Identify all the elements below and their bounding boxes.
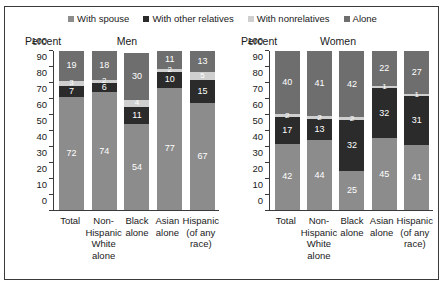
x-label-women-1: Non-HispanicWhitealone <box>301 215 337 261</box>
bar-segment: 40 <box>275 51 300 114</box>
bar-value-label: 67 <box>198 152 208 161</box>
y-tick <box>49 146 53 147</box>
x-label-women-2: Blackalone <box>337 215 367 261</box>
bar-value-label: 5 <box>200 72 204 80</box>
bar-segment: 44 <box>307 140 332 210</box>
bar-value-label: 41 <box>412 173 422 182</box>
bar-value-label: 18 <box>99 61 109 70</box>
bar-segment: 32 <box>372 88 397 139</box>
x-label-line: Asian <box>367 215 397 227</box>
bar-value-label: 1 <box>382 83 386 91</box>
legend-item-alone: Alone <box>344 13 377 24</box>
y-tick-label: 100 <box>23 35 47 46</box>
x-label-line: Hispanic <box>397 215 433 227</box>
bar-segment: 13 <box>307 119 332 140</box>
bar-segment: 22 <box>372 51 397 86</box>
x-label-line: (of any <box>183 227 219 239</box>
legend-swatch-icon <box>68 16 74 22</box>
x-label-men-3: Asianalone <box>152 215 182 261</box>
plot-area-women: 0102030405060708090100 40217424121344422… <box>269 51 433 211</box>
y-tick <box>49 114 53 115</box>
bar-group-women: 40217424121344422322522132452713141 <box>271 51 433 210</box>
y-tick <box>49 194 53 195</box>
legend-item-with_nonrelatives: With nonrelatives <box>248 13 330 24</box>
bar-value-label: 77 <box>165 144 175 153</box>
y-tick-label: 50 <box>23 115 47 126</box>
bar-value-label: 27 <box>412 68 422 77</box>
bar-value-label: 19 <box>66 61 76 70</box>
bar-segment: 10 <box>157 72 182 88</box>
bar-segment: 15 <box>190 80 215 104</box>
x-label-line: Non- <box>301 215 337 227</box>
y-tick <box>49 82 53 83</box>
bar-segment: 77 <box>157 88 182 210</box>
bar-segment: 11 <box>124 107 149 124</box>
bar-value-label: 15 <box>198 87 208 96</box>
bar-segment: 25 <box>339 171 364 210</box>
bar-men-4[interactable]: 1351567 <box>190 51 215 210</box>
bar-value-label: 2 <box>168 66 172 74</box>
y-tick <box>265 146 269 147</box>
y-tick-label: 40 <box>239 131 263 142</box>
bar-value-label: 2 <box>350 115 354 123</box>
bar-value-label: 7 <box>69 87 74 96</box>
bar-value-label: 42 <box>347 80 357 89</box>
x-label-line: alone <box>301 250 337 262</box>
y-tick <box>265 162 269 163</box>
x-label-line: Asian <box>152 215 182 227</box>
bar-segment: 74 <box>92 92 117 210</box>
x-label-line: Non- <box>85 215 121 227</box>
bar-value-label: 54 <box>132 163 142 172</box>
bar-value-label: 2 <box>317 114 321 122</box>
bar-women-2[interactable]: 4223225 <box>339 51 364 210</box>
y-tick <box>265 66 269 67</box>
legend-label: With nonrelatives <box>257 13 330 24</box>
bar-men-3[interactable]: 1121077 <box>157 51 182 210</box>
y-tick <box>265 178 269 179</box>
bar-women-4[interactable]: 2713141 <box>404 51 429 210</box>
x-label-line: (of any <box>397 227 433 239</box>
panel-men: Percent Men 0102030405060708090100 19377… <box>11 33 225 279</box>
bar-men-1[interactable]: 182674 <box>92 51 117 210</box>
bar-value-label: 40 <box>282 78 292 87</box>
legend-label: Alone <box>353 13 377 24</box>
y-tick-label: 10 <box>239 179 263 190</box>
y-tick <box>49 178 53 179</box>
x-label-line: Black <box>337 215 367 227</box>
bar-value-label: 25 <box>347 186 357 195</box>
chart-frame: With spouseWith other relativesWith nonr… <box>4 6 439 280</box>
bar-segment: 45 <box>372 138 397 210</box>
bar-value-label: 4 <box>135 99 139 107</box>
bar-men-2[interactable]: 3041154 <box>124 51 149 210</box>
bar-segment: 42 <box>275 144 300 210</box>
x-axis-women <box>269 210 433 211</box>
x-label-line: alone <box>85 250 121 262</box>
legend-swatch-icon <box>344 16 350 22</box>
y-tick-label: 30 <box>239 147 263 158</box>
bar-women-1[interactable]: 4121344 <box>307 51 332 210</box>
x-label-line: alone <box>367 227 397 239</box>
bar-segment: 30 <box>124 53 149 101</box>
y-tick-label: 30 <box>23 147 47 158</box>
y-tick-label: 0 <box>239 195 263 206</box>
bar-women-3[interactable]: 2213245 <box>372 51 397 210</box>
bar-women-0[interactable]: 4021742 <box>275 51 300 210</box>
bar-value-label: 74 <box>99 147 109 156</box>
y-tick-label: 60 <box>23 99 47 110</box>
x-label-line: alone <box>337 227 367 239</box>
legend-swatch-icon <box>143 16 149 22</box>
bar-value-label: 22 <box>379 64 389 73</box>
bar-value-label: 2 <box>285 112 289 120</box>
y-tick-label: 20 <box>23 163 47 174</box>
bar-segment: 41 <box>404 145 429 210</box>
x-label-women-4: Hispanic(of anyrace) <box>397 215 433 261</box>
x-label-line: Black <box>122 215 152 227</box>
bar-men-0[interactable]: 193772 <box>59 51 84 210</box>
x-label-men-1: Non-HispanicWhitealone <box>85 215 121 261</box>
x-label-line: Hispanic <box>85 227 121 239</box>
y-tick <box>49 50 53 51</box>
x-label-men-2: Blackalone <box>122 215 152 261</box>
bar-value-label: 44 <box>315 171 325 180</box>
x-label-line: Total <box>271 215 301 227</box>
bar-segment: 32 <box>339 120 364 170</box>
